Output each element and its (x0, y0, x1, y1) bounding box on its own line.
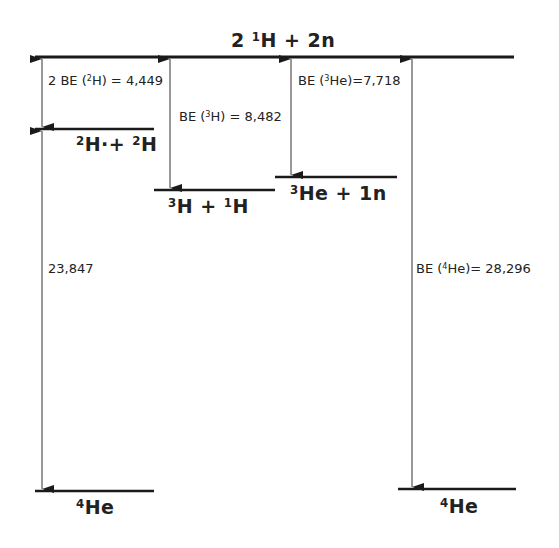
label-be3h: BE (3H) = 8,482 (179, 109, 282, 124)
label-23847: 23,847 (48, 261, 94, 276)
label-he3-n: 3He + 1n (290, 182, 387, 204)
label-h2-h2: 2H·+ 2H (76, 133, 157, 155)
label-h3-h1: 3H + 1H (168, 195, 249, 217)
label-be2h: 2 BE (2H) = 4,449 (48, 73, 163, 88)
label-he4-left: 4He (76, 496, 114, 518)
label-he4-right: 4He (440, 495, 478, 517)
label-be4he: BE (4He)= 28,296 (416, 261, 531, 276)
label-top-level: 2 1H + 2n (231, 29, 335, 51)
label-be3he: BE (3He)=7,718 (298, 73, 400, 88)
